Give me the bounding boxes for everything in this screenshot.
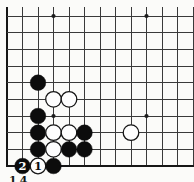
move-number-label: 1 — [34, 159, 42, 173]
white-stone — [46, 125, 62, 141]
black-stone — [30, 108, 46, 124]
white-stone — [123, 125, 139, 141]
star-point — [51, 14, 55, 18]
black-stone — [61, 142, 77, 158]
move-number-label: 2 — [18, 159, 26, 173]
white-stone — [61, 125, 77, 141]
black-stone — [30, 75, 46, 91]
white-stone — [46, 92, 62, 108]
black-stone — [30, 142, 46, 158]
white-stone — [46, 142, 62, 158]
star-point — [51, 114, 55, 118]
black-stone — [30, 125, 46, 141]
go-diagram-scan: 21 14 — [0, 0, 194, 182]
black-stone — [77, 142, 93, 158]
go-board: 21 — [0, 0, 194, 182]
star-point — [144, 14, 148, 18]
white-stone — [61, 92, 77, 108]
caption-fragment: 14 — [9, 174, 30, 182]
black-stone — [46, 158, 62, 174]
star-point — [144, 114, 148, 118]
black-stone — [77, 125, 93, 141]
